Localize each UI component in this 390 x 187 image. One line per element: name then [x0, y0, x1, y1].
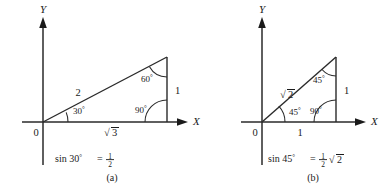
- figure-canvas: Y X 30° 90° 60° 2 1 √ 3: [0, 0, 390, 187]
- panel-a-apex-angle-degree-symbol: °: [150, 73, 153, 81]
- panel-a-formula-lhs: sin 30°: [55, 153, 82, 165]
- panel-b-x-axis-label: X: [370, 115, 379, 127]
- panel-a-vertical-leg-label: 1: [175, 85, 180, 96]
- panel-b-base-label: 1: [297, 127, 302, 138]
- panel-b-base-angle-label: 45°: [289, 106, 301, 118]
- panel-a-right-angle-arc: [145, 100, 167, 122]
- panel-b-formula-radicand: 2: [337, 154, 342, 165]
- panel-b-x-axis-arrowhead: [355, 118, 366, 126]
- panel-a-caption: (a): [106, 172, 117, 184]
- panel-a-base-angle-label: 30°: [73, 105, 85, 117]
- panel-b-hypotenuse-radicand: 2: [288, 89, 293, 100]
- panel-b-hypotenuse-radical-sign: √: [280, 89, 286, 100]
- panel-b-right-angle-degree-symbol: °: [319, 105, 322, 113]
- panel-a-right-angle-label: 90°: [135, 104, 147, 116]
- panel-a-apex-angle-label: 60°: [141, 73, 153, 85]
- panel-b-vertical-leg-label: 1: [344, 85, 349, 96]
- trigonometry-figure: Y X 30° 90° 60° 2 1 √ 3: [0, 0, 390, 187]
- panel-a-formula-lhs-text: sin 30: [55, 153, 79, 164]
- panel-a-base-angle-arc: [66, 112, 68, 122]
- panel-a-formula-degree-symbol: °: [79, 153, 82, 161]
- panel-a-y-axis-arrowhead: [39, 17, 47, 28]
- panel-a-right-angle-degree-symbol: °: [144, 104, 147, 112]
- panel-b-formula-lhs-text: sin 45: [268, 153, 292, 164]
- panel-b-y-axis-label: Y: [259, 3, 267, 15]
- panel-a-x-axis-label: X: [192, 115, 201, 127]
- panel-a-base-label: √ 3: [104, 127, 119, 138]
- panel-b-hypotenuse-label: √ 2: [280, 89, 295, 100]
- panel-b-y-axis-arrowhead: [258, 17, 266, 28]
- panel-b-formula-equals: =: [310, 153, 316, 164]
- panel-a-formula: sin 30° = 1 2: [55, 152, 114, 170]
- panel-a: Y X 30° 90° 60° 2 1 √ 3: [22, 3, 201, 184]
- panel-b: Y X 45° 90° 45° √ 2 1: [241, 3, 379, 184]
- panel-b-formula-radical-sign: √: [329, 154, 335, 165]
- panel-a-formula-fraction-denominator: 2: [108, 160, 112, 169]
- panel-b-apex-angle-degree-symbol: °: [322, 74, 325, 82]
- panel-b-base-angle-degree-symbol: °: [298, 106, 301, 114]
- panel-a-y-axis-label: Y: [40, 3, 48, 15]
- panel-b-formula-lhs: sin 45°: [268, 153, 295, 165]
- panel-a-base-angle-degree-symbol: °: [82, 105, 85, 113]
- panel-a-x-axis-arrowhead: [177, 118, 188, 126]
- panel-a-origin-label: 0: [33, 127, 38, 138]
- panel-b-right-angle-label: 90°: [310, 105, 322, 117]
- panel-b-formula-fraction-denominator: 2: [321, 160, 325, 169]
- panel-a-hypotenuse-label: 2: [75, 87, 80, 98]
- panel-b-caption: (b): [307, 172, 319, 184]
- panel-b-origin-label: 0: [252, 127, 257, 138]
- panel-a-formula-equals: =: [97, 153, 103, 164]
- panel-b-apex-angle-label: 45°: [313, 74, 325, 86]
- panel-b-formula-degree-symbol: °: [292, 153, 295, 161]
- panel-a-base-radicand: 3: [112, 127, 117, 138]
- panel-a-base-radical-sign: √: [104, 127, 110, 138]
- panel-a-hypotenuse: [43, 57, 167, 122]
- panel-b-formula: sin 45° = 1 2 √ 2: [268, 152, 344, 170]
- panel-b-base-angle-arc: [279, 106, 285, 122]
